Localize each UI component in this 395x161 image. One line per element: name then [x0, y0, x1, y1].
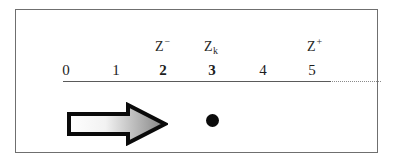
- figure-canvas: Z− Zk Z+ 0 1 2 3 4 5: [0, 0, 395, 161]
- annotation-z-k-subscript: k: [213, 45, 219, 56]
- point-marker: [206, 114, 219, 127]
- annotation-z-plus: Z+: [307, 39, 322, 55]
- annotation-z-plus-superscript: +: [316, 36, 323, 47]
- annotation-z-minus: Z−: [155, 39, 170, 55]
- annotation-z-minus-base: Z: [155, 39, 164, 54]
- tick-label-2: 2: [152, 62, 174, 79]
- annotation-z-k-base: Z: [204, 39, 213, 54]
- annotation-z-minus-superscript: −: [164, 36, 171, 47]
- tick-label-1: 1: [105, 62, 127, 79]
- number-line-solid: [63, 81, 331, 82]
- number-line-dotted-continuation: [332, 81, 381, 82]
- tick-label-3: 3: [201, 62, 223, 79]
- tick-label-5: 5: [301, 62, 323, 79]
- tick-label-0: 0: [55, 62, 77, 79]
- tick-label-4: 4: [252, 62, 274, 79]
- direction-arrow: [66, 102, 168, 146]
- annotation-z-plus-base: Z: [307, 39, 316, 54]
- arrow-shape: [69, 105, 165, 143]
- figure-frame: Z− Zk Z+ 0 1 2 3 4 5: [15, 9, 378, 153]
- annotation-z-k: Zk: [204, 39, 218, 55]
